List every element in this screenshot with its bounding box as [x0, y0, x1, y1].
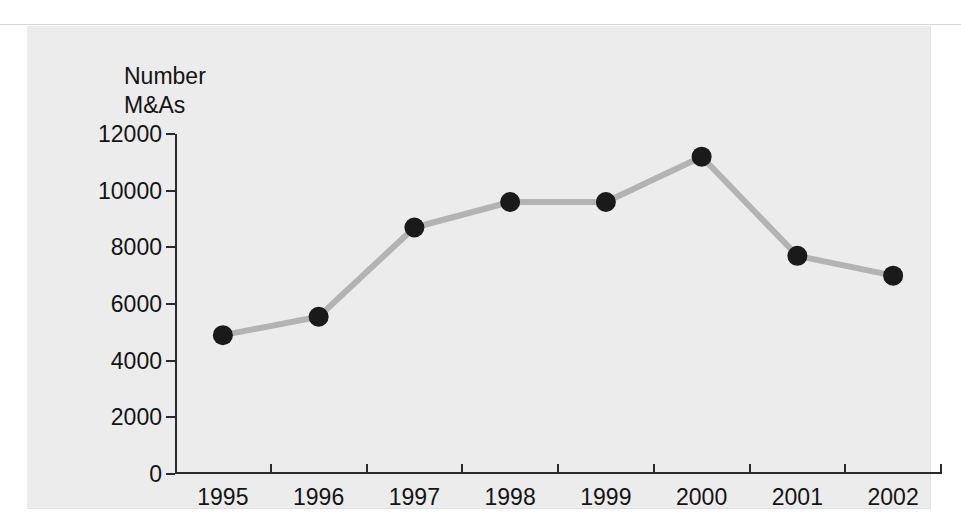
data-point-marker: [500, 192, 520, 212]
y-tick-mark: [166, 416, 175, 418]
data-point-marker: [213, 325, 233, 345]
y-tick-mark: [166, 303, 175, 305]
x-tick-label: 2002: [845, 486, 941, 509]
y-axis-title-line2: M&As: [124, 92, 185, 118]
x-tick-mark: [844, 464, 846, 474]
data-point-marker: [883, 266, 903, 286]
x-tick-mark: [557, 464, 559, 474]
top-divider: [0, 24, 961, 25]
data-point-marker: [692, 147, 712, 167]
x-tick-label: 1997: [367, 486, 463, 509]
y-tick-label: 0: [62, 463, 162, 486]
y-tick-label: 6000: [62, 293, 162, 316]
series-markers: [213, 147, 903, 345]
y-tick-mark: [166, 473, 175, 475]
data-point-marker: [404, 218, 424, 238]
y-tick-label: 4000: [62, 349, 162, 372]
x-tick-mark: [940, 464, 942, 474]
x-tick-label: 1995: [175, 486, 271, 509]
plot-area: 020004000600080001000012000 199519961997…: [175, 134, 941, 474]
x-tick-mark: [366, 464, 368, 474]
series-line-layer: [175, 134, 941, 474]
x-tick-label: 2000: [654, 486, 750, 509]
x-tick-label: 1999: [558, 486, 654, 509]
data-point-marker: [596, 192, 616, 212]
x-tick-label: 2001: [750, 486, 846, 509]
x-tick-mark: [749, 464, 751, 474]
y-tick-mark: [166, 360, 175, 362]
y-tick-label: 2000: [62, 406, 162, 429]
x-tick-mark: [270, 464, 272, 474]
y-axis-title-line1: Number: [124, 63, 206, 89]
y-tick-mark: [166, 246, 175, 248]
y-tick-label: 12000: [62, 123, 162, 146]
x-tick-label: 1996: [271, 486, 367, 509]
data-point-marker: [309, 307, 329, 327]
y-tick-mark: [166, 133, 175, 135]
y-tick-label: 10000: [62, 179, 162, 202]
chart-screenshot: NumberM&As 020004000600080001000012000 1…: [0, 0, 961, 530]
y-axis-title: NumberM&As: [124, 62, 206, 121]
y-tick-mark: [166, 190, 175, 192]
x-tick-mark: [461, 464, 463, 474]
data-point-marker: [787, 246, 807, 266]
y-tick-label: 8000: [62, 236, 162, 259]
x-tick-mark: [653, 464, 655, 474]
figure-panel: NumberM&As 020004000600080001000012000 1…: [27, 26, 931, 509]
x-tick-label: 1998: [462, 486, 558, 509]
